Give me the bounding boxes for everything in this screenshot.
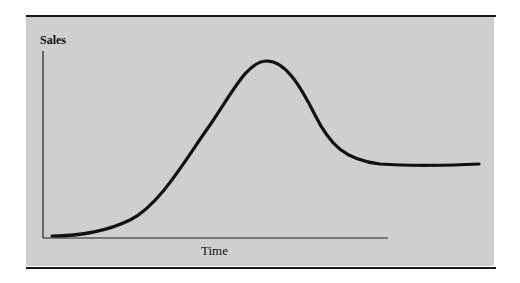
x-axis-label: Time — [201, 243, 228, 259]
chart-svg — [0, 0, 520, 283]
y-axis-label: Sales — [40, 33, 66, 48]
sales-curve — [52, 61, 479, 236]
